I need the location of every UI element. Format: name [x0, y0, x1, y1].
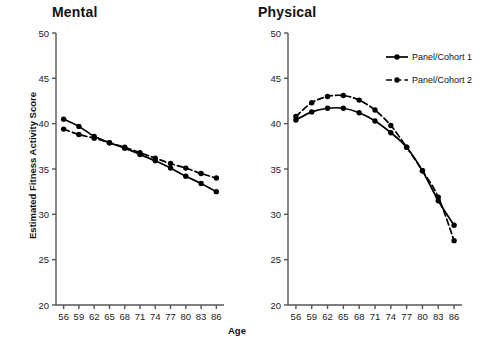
x-tick-label: 56	[291, 311, 302, 322]
data-point	[183, 165, 188, 170]
legend-marker-swatch	[394, 54, 399, 59]
y-tick-label: 40	[270, 118, 281, 129]
data-point	[325, 106, 330, 111]
x-tick-label: 56	[58, 311, 69, 322]
y-tick-label: 25	[38, 254, 49, 265]
y-tick-label: 25	[270, 254, 281, 265]
data-point	[168, 161, 173, 166]
x-tick-label: 77	[165, 311, 176, 322]
data-point	[388, 123, 393, 128]
x-tick-label: 74	[386, 311, 397, 322]
data-point	[76, 124, 81, 129]
x-tick-label: 86	[449, 311, 460, 322]
data-point	[183, 174, 188, 179]
data-point	[309, 109, 314, 114]
data-point	[341, 106, 346, 111]
x-tick-label: 62	[322, 311, 333, 322]
y-tick-label: 20	[38, 300, 49, 311]
data-point	[198, 171, 203, 176]
data-point	[293, 114, 298, 119]
data-point	[76, 132, 81, 137]
data-point	[420, 168, 425, 173]
y-tick-label: 20	[270, 300, 281, 311]
data-point	[356, 110, 361, 115]
data-point	[372, 107, 377, 112]
y-tick-label: 40	[38, 118, 49, 129]
x-tick-label: 77	[401, 311, 412, 322]
data-point	[214, 175, 219, 180]
data-point	[122, 145, 127, 150]
data-point	[404, 145, 409, 150]
y-tick-label: 30	[38, 209, 49, 220]
data-point	[341, 93, 346, 98]
data-point	[198, 181, 203, 186]
data-point	[107, 140, 112, 145]
data-point	[91, 135, 96, 140]
x-tick-label: 68	[119, 311, 130, 322]
plot-svg: 202530354045505659626568717477808386 202…	[0, 0, 499, 344]
x-tick-label: 62	[89, 311, 100, 322]
data-point	[153, 155, 158, 160]
x-tick-label: 59	[306, 311, 317, 322]
y-tick-label: 45	[270, 73, 281, 84]
chart-legend: Panel/Cohort 1Panel/Cohort 2	[386, 52, 472, 85]
x-tick-label: 65	[338, 311, 349, 322]
y-tick-label: 35	[270, 164, 281, 175]
y-tick-label: 30	[270, 209, 281, 220]
x-tick-label: 59	[74, 311, 85, 322]
legend-item-label: Panel/Cohort 2	[412, 75, 472, 85]
series-line	[296, 95, 454, 240]
x-tick-label: 83	[196, 311, 207, 322]
x-tick-label: 83	[433, 311, 444, 322]
data-point	[436, 194, 441, 199]
x-tick-label: 74	[150, 311, 161, 322]
x-tick-label: 68	[354, 311, 365, 322]
data-point	[325, 94, 330, 99]
data-point	[61, 116, 66, 121]
x-tick-label: 71	[135, 311, 146, 322]
legend-item-label: Panel/Cohort 1	[412, 52, 472, 62]
x-tick-label: 71	[370, 311, 381, 322]
data-point	[451, 223, 456, 228]
y-tick-label: 50	[38, 28, 49, 39]
data-point	[372, 118, 377, 123]
data-point	[356, 97, 361, 102]
data-point	[309, 100, 314, 105]
data-point	[388, 130, 393, 135]
data-point	[61, 126, 66, 131]
panel-mental: 202530354045505659626568717477808386	[38, 28, 224, 322]
y-tick-label: 35	[38, 164, 49, 175]
x-tick-label: 65	[104, 311, 115, 322]
x-tick-label: 86	[211, 311, 222, 322]
y-tick-label: 50	[270, 28, 281, 39]
figure-canvas: Mental Physical Estimated Fitness Activi…	[0, 0, 499, 344]
series-line	[296, 108, 454, 225]
data-point	[214, 189, 219, 194]
data-point	[451, 238, 456, 243]
x-tick-label: 80	[417, 311, 428, 322]
x-tick-label: 80	[181, 311, 192, 322]
data-point	[137, 150, 142, 155]
legend-marker-swatch	[394, 77, 399, 82]
y-tick-label: 45	[38, 73, 49, 84]
panel-physical: 202530354045505659626568717477808386	[270, 28, 462, 322]
